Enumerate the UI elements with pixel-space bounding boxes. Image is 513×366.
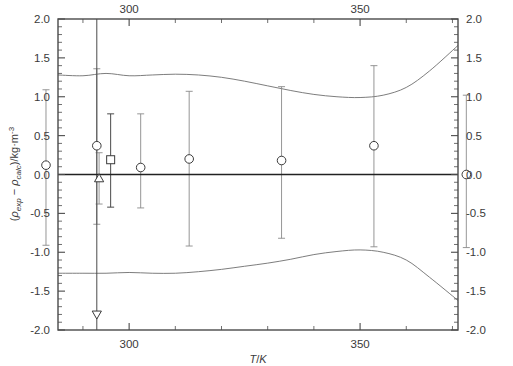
y-tick-label-left: 0.0 <box>34 169 50 181</box>
x-tick-label-bottom: 300 <box>120 338 139 350</box>
y-axis-label-sup: -3 <box>7 126 16 134</box>
marker-circle <box>370 141 379 150</box>
marker-triangle-down <box>92 311 101 319</box>
y-tick-label-left: 2.0 <box>34 13 50 25</box>
marker-square <box>107 156 115 164</box>
marker-circle <box>277 156 286 165</box>
deviation-scatter-plot: 300300350350-2.0-2.0-1.5-1.5-1.0-1.0-0.5… <box>0 0 513 366</box>
y-axis-label-sub-exp: exp <box>14 198 23 211</box>
y-tick-label-left: 1.5 <box>34 52 50 64</box>
y-tick-label-right: 1.5 <box>466 52 482 64</box>
data-markers-group <box>0 138 471 319</box>
y-tick-label-left: -1.5 <box>30 285 50 297</box>
y-axis-label-sub-calc: calc <box>14 165 23 179</box>
x-tick-label-bottom: 350 <box>350 338 369 350</box>
y-axis-label-rho-calc: ρ <box>8 179 20 186</box>
x-axis-label-unit: K <box>259 353 267 365</box>
y-tick-label-right: -0.5 <box>466 207 486 219</box>
marker-circle <box>92 141 101 150</box>
y-tick-label-right: 0.5 <box>466 130 482 142</box>
marker-circle <box>136 163 145 172</box>
marker-circle <box>185 155 194 164</box>
y-tick-label-left: 1.0 <box>34 91 50 103</box>
y-tick-label-right: 0.0 <box>466 169 482 181</box>
y-tick-label-right: -2.0 <box>466 324 486 336</box>
svg-text:(ρexp − ρcalc)/kg·m-3: (ρexp − ρcalc)/kg·m-3 <box>7 126 23 221</box>
y-tick-label-right: 1.0 <box>466 91 482 103</box>
y-tick-label-left: 0.5 <box>34 130 50 142</box>
y-tick-label-right: -1.5 <box>466 285 486 297</box>
y-tick-label-left: -2.0 <box>30 324 50 336</box>
figure-root: 300300350350-2.0-2.0-1.5-1.5-1.0-1.0-0.5… <box>0 0 513 366</box>
uncertainty-band-upper <box>58 45 458 97</box>
x-axis-label: T/K <box>249 353 267 365</box>
y-axis-label-rho-exp: ρ <box>8 211 20 218</box>
y-axis-label-minus: − <box>8 186 20 199</box>
uncertainty-band-group <box>58 45 458 300</box>
y-tick-label-right: -1.0 <box>466 246 486 258</box>
uncertainty-band-lower <box>58 250 458 301</box>
y-tick-label-right: 2.0 <box>466 13 482 25</box>
y-tick-label-left: -0.5 <box>30 207 50 219</box>
x-tick-label-top: 350 <box>350 3 369 15</box>
x-tick-label-top: 300 <box>120 3 139 15</box>
y-axis-label-close: )/kg·m <box>8 134 20 165</box>
y-tick-label-left: -1.0 <box>30 246 50 258</box>
y-axis-label: (ρexp − ρcalc)/kg·m-3 <box>7 126 23 221</box>
